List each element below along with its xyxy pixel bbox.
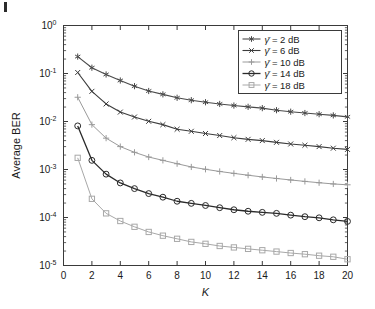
x-tick-label: 18: [314, 270, 326, 281]
series-marker-10-dB: [288, 177, 294, 183]
figure-canvas: 02468101214161820K10010-110-210-310-410-…: [0, 0, 375, 309]
series-line-18-dB: [78, 158, 348, 259]
y-tick-label: 10-2: [39, 115, 56, 127]
y-tick-label: 100: [41, 19, 56, 31]
x-tick-label: 20: [342, 270, 354, 281]
x-tick-label: 10: [200, 270, 212, 281]
x-tick-label: 2: [89, 270, 95, 281]
series-marker-10-dB: [188, 164, 194, 170]
series-marker-6-dB: [104, 101, 109, 106]
series-marker-10-dB: [302, 178, 308, 184]
series-marker-2-dB: [118, 77, 123, 83]
x-tick-label: 16: [285, 270, 297, 281]
legend-label: γ̄ = 6 dB: [265, 45, 300, 56]
legend-label: γ̄ = 2 dB: [265, 34, 300, 45]
series-marker-10-dB: [202, 166, 208, 172]
series-marker-2-dB: [89, 65, 94, 71]
series-line-14-dB: [78, 126, 348, 221]
legend-label: γ̄ = 10 dB: [265, 57, 305, 68]
series-marker-10-dB: [259, 174, 265, 180]
x-axis-label: K: [202, 286, 210, 298]
legend-label: γ̄ = 14 dB: [265, 68, 305, 79]
legend-label: γ̄ = 18 dB: [265, 80, 305, 91]
y-tick-label: 10-5: [39, 259, 56, 271]
series-marker-2-dB: [103, 71, 108, 77]
x-tick-label: 4: [118, 270, 124, 281]
y-tick-label: 10-1: [39, 67, 56, 79]
x-tick-label: 0: [61, 270, 67, 281]
series-marker-10-dB: [131, 149, 137, 155]
series-marker-2-dB: [75, 53, 80, 59]
ber-vs-k-chart: 02468101214161820K10010-110-210-310-410-…: [0, 0, 375, 309]
series-marker-10-dB: [217, 168, 223, 174]
series-marker-10-dB: [174, 161, 180, 167]
series-marker-10-dB: [273, 175, 279, 181]
y-tick-label: 10-4: [39, 211, 56, 223]
page-corner-mark: [4, 2, 7, 12]
series-marker-6-dB: [75, 70, 80, 75]
x-tick-label: 12: [228, 270, 240, 281]
y-tick-label: 10-3: [39, 163, 56, 175]
series-marker-10-dB: [330, 181, 336, 187]
x-tick-label: 14: [257, 270, 269, 281]
series-marker-10-dB: [146, 154, 152, 160]
series-marker-10-dB: [245, 172, 251, 178]
series-marker-10-dB: [75, 94, 81, 100]
series-marker-6-dB: [118, 110, 123, 115]
series-marker-10-dB: [117, 143, 123, 149]
x-tick-label: 8: [174, 270, 180, 281]
series-marker-10-dB: [160, 157, 166, 163]
y-axis-label: Average BER: [10, 112, 22, 179]
x-tick-label: 6: [146, 270, 152, 281]
series-marker-2-dB: [132, 83, 137, 89]
series-marker-10-dB: [316, 180, 322, 186]
series-marker-10-dB: [344, 182, 350, 188]
series-marker-6-dB: [89, 89, 94, 94]
series-marker-10-dB: [231, 170, 237, 176]
